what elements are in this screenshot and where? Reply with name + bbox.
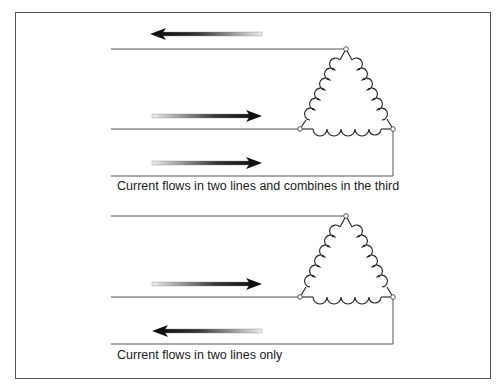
delta-coil-icon: [300, 49, 393, 136]
panel-2: [111, 214, 395, 344]
caption-panel-1: Current flows in two lines and combines …: [117, 179, 399, 193]
arrow-left-icon: [150, 28, 262, 40]
terminal-node: [344, 214, 349, 219]
arrow-right-icon: [152, 110, 262, 122]
arrow-left-icon: [152, 325, 262, 337]
arrow-right-icon: [152, 278, 262, 290]
terminal-node: [391, 127, 396, 132]
terminal-node: [391, 295, 396, 300]
panel-1: [111, 28, 395, 176]
terminal-node: [298, 295, 303, 300]
delta-winding-diagram: [0, 0, 500, 387]
terminal-node: [344, 47, 349, 52]
caption-panel-2: Current flows in two lines only: [117, 348, 282, 362]
delta-coil-icon: [300, 216, 393, 304]
arrow-right-icon: [152, 157, 262, 169]
terminal-node: [298, 127, 303, 132]
